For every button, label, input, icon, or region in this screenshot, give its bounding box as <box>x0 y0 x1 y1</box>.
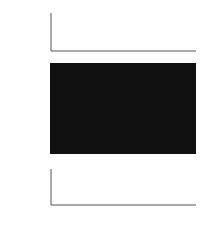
top-density-plot <box>0 0 209 60</box>
flow-background <box>50 63 196 154</box>
